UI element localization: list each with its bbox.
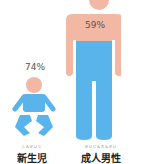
adult-male-percentage: 59% — [80, 20, 110, 30]
newborn-percentage: 74% — [20, 62, 50, 72]
newborn-label: 新生児 — [13, 150, 51, 164]
newborn-icon — [12, 77, 60, 139]
adult-male-label: 成人男性 — [76, 150, 126, 164]
adult-male-ruby: せいじんだんせい — [78, 145, 124, 149]
newborn-ruby: しんせいじ — [16, 145, 48, 149]
